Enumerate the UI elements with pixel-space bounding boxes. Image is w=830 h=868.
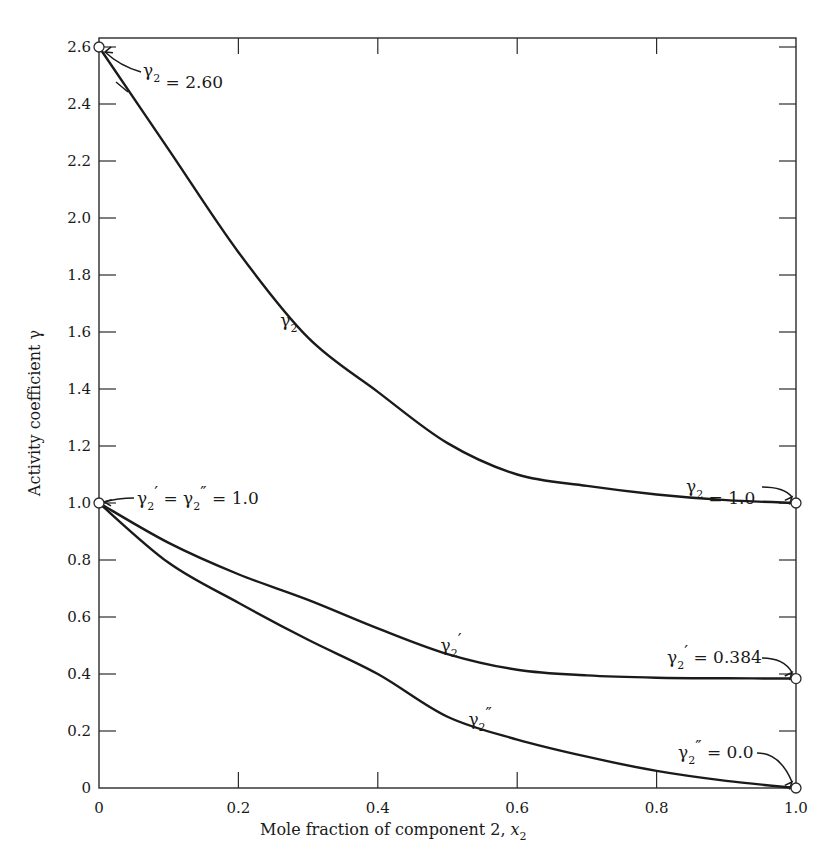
y-axis-ticks: 00.20.40.60.81.01.21.41.61.82.02.22.42.6 — [67, 38, 796, 797]
curves — [99, 47, 796, 788]
y-tick-label: 0.4 — [67, 665, 91, 683]
endpoint-marker — [791, 498, 801, 508]
annotation-gamma2-prime-0384: γ2′ = 0.384 — [667, 641, 762, 672]
x-axis-title-main: Mole fraction of component 2, — [260, 820, 511, 839]
x-axis-title-sub: 2 — [520, 830, 527, 843]
y-axis-title: Activity coefficient γ — [25, 330, 44, 497]
y-tick-label: 0.6 — [67, 608, 91, 626]
y-tick-label: 1.0 — [67, 494, 91, 512]
gamma2-prime-label: γ2′ — [441, 629, 462, 660]
x-tick-label: 0.6 — [505, 799, 529, 817]
gamma2-curve — [99, 47, 796, 503]
plot-frame — [99, 38, 796, 788]
leader-arrow — [762, 658, 792, 673]
endpoint-marker — [94, 498, 104, 508]
x-tick-label: 0.8 — [645, 799, 669, 817]
y-tick-label: 0.2 — [67, 722, 91, 740]
y-tick-label: 0.8 — [67, 551, 91, 569]
x-axis-title: Mole fraction of component 2, x2 — [260, 820, 527, 843]
x-tick-label: 1.0 — [784, 799, 808, 817]
y-tick-label: 1.8 — [67, 266, 91, 284]
leader-arrow — [762, 487, 792, 497]
endpoint-markers — [94, 42, 801, 793]
curve-labels: γ2γ2′γ2″ — [280, 310, 492, 734]
x-tick-label: 0 — [94, 799, 104, 817]
y-tick-label: 0 — [81, 779, 91, 797]
gamma2-label: γ2 — [280, 310, 297, 335]
x-tick-label: 0.2 — [226, 799, 250, 817]
annotation-gamma2-1: γ2 = 1.0 — [686, 476, 755, 508]
endpoint-marker — [94, 42, 104, 52]
x-axis-ticks: 00.20.40.60.81.0 — [94, 38, 808, 817]
x-tick-label: 0.4 — [366, 799, 390, 817]
y-tick-label: 1.6 — [67, 323, 91, 341]
arrowhead — [105, 47, 113, 53]
annotation-gamma2-double-prime-0: γ2″ = 0.0 — [678, 736, 754, 767]
endpoint-marker — [791, 783, 801, 793]
activity-coefficient-chart: 00.20.40.60.81.01.21.41.61.82.02.22.42.6… — [0, 0, 830, 868]
plot-border — [99, 38, 796, 788]
y-tick-label: 1.4 — [67, 380, 91, 398]
annotation-gamma2-260: γ2 = 2.60 — [143, 60, 223, 92]
x-axis-title-var: x — [511, 820, 520, 839]
gamma2-double-prime-label: γ2″ — [468, 703, 492, 734]
endpoint-marker — [791, 674, 801, 684]
y-tick-label: 2.0 — [67, 209, 91, 227]
leader-arrow — [757, 753, 792, 782]
y-tick-label: 2.6 — [67, 38, 91, 56]
annotation-gamma2-primes-1: γ2′ = γ2″ = 1.0 — [137, 482, 259, 513]
y-tick-label: 2.4 — [67, 95, 91, 113]
y-tick-label: 1.2 — [67, 437, 91, 455]
y-tick-label: 2.2 — [67, 152, 91, 170]
